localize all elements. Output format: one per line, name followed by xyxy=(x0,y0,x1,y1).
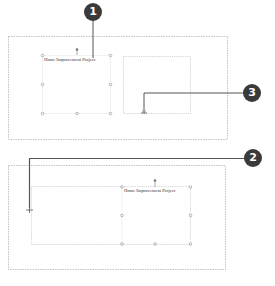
top-selected-text-box[interactable] xyxy=(43,56,111,114)
top-resize-handles[interactable] xyxy=(41,54,112,115)
rotate-handle[interactable] xyxy=(154,179,157,182)
top-text-box-label: Home Improvement Project xyxy=(44,58,95,63)
callout-2-leader xyxy=(30,159,246,209)
diagram-canvas xyxy=(0,0,275,286)
callout-1-badge: 1 xyxy=(84,3,102,21)
top-page-frame xyxy=(9,37,228,140)
callout-3-leader xyxy=(144,93,244,111)
resize-preview-outline xyxy=(32,187,191,245)
callout-3-badge: 3 xyxy=(243,84,261,102)
top-panel xyxy=(9,20,245,140)
rotate-handle[interactable] xyxy=(76,48,79,51)
bottom-text-box-label: Home Improvement Project xyxy=(124,189,175,194)
bottom-panel xyxy=(9,159,246,270)
bottom-resize-handles[interactable] xyxy=(121,186,192,246)
callout-2-badge: 2 xyxy=(244,149,262,167)
drag-destination-outline xyxy=(124,57,191,114)
resize-cursor-icon xyxy=(26,207,33,213)
bottom-page-frame xyxy=(9,166,226,270)
